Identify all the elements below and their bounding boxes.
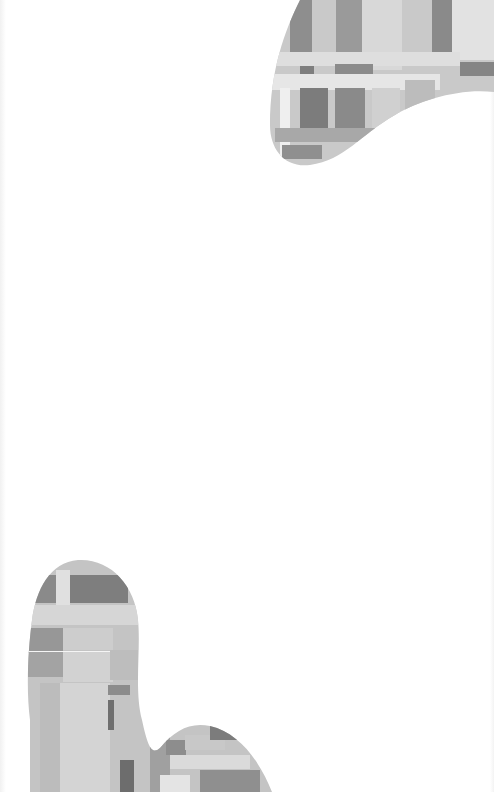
decorative-blobs — [0, 0, 494, 792]
blank-page — [0, 0, 494, 792]
bottom-left-blob — [20, 555, 280, 792]
top-right-blob — [260, 0, 494, 180]
